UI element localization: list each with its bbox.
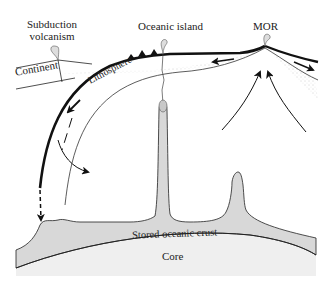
arrow-slab-down	[68, 100, 80, 112]
plume-head	[159, 100, 167, 112]
arrow-upwelling-left	[222, 72, 260, 130]
label-mor: MOR	[253, 20, 278, 32]
label-subduction-line1: Subduction	[22, 18, 82, 30]
label-core: Core	[162, 250, 183, 262]
trench-teeth	[127, 49, 158, 60]
label-subduction-line2: volcanism	[22, 30, 82, 42]
slab-dashed-inner	[62, 118, 72, 150]
volcano-plume-island	[161, 40, 167, 53]
plume-conduit	[162, 54, 164, 104]
lithosphere-top	[40, 46, 265, 188]
label-oceanic-island: Oceanic island	[138, 20, 203, 32]
slab-dashed-line	[40, 190, 41, 220]
label-subduction-volcanism: Subduction volcanism	[22, 18, 82, 42]
mantle-convection-diagram	[0, 0, 334, 284]
volcano-plume-mor	[264, 34, 270, 46]
arrow-slab-curve	[58, 140, 88, 172]
